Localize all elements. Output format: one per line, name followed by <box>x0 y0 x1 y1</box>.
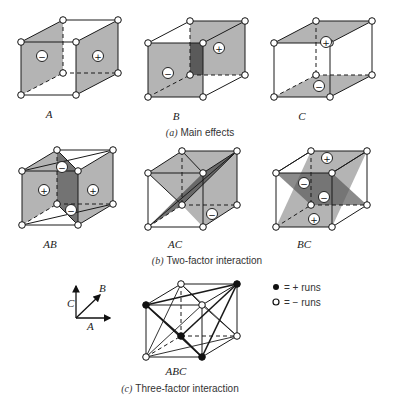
minus-run-point <box>327 94 334 101</box>
legend-open-circle-icon <box>273 299 279 305</box>
sign-glyph: − <box>164 69 172 79</box>
minus-run-point <box>271 94 278 101</box>
sign-glyph: − <box>300 179 308 189</box>
axis-label-c: C <box>67 297 75 309</box>
minus-run-point <box>187 72 194 79</box>
minus-run-point <box>73 39 80 46</box>
minus-run-point <box>364 148 371 155</box>
minus-run-point <box>234 333 241 340</box>
caption-c-letter: (c) <box>121 383 133 395</box>
minus-run-point <box>200 170 207 177</box>
caption-c-text: Three-factor interaction <box>135 383 238 394</box>
legend-plus-runs: = + runs <box>284 282 321 293</box>
cube-b-main-effect: −+ <box>145 18 249 101</box>
minus-run-point <box>200 40 207 47</box>
cube-label-c: C <box>298 110 306 122</box>
cube-c-main-effect: +− <box>271 18 376 101</box>
sign-glyph: − <box>320 193 328 203</box>
minus-run-point <box>199 302 206 309</box>
cube-bc-interaction: +−−+ <box>273 148 371 231</box>
minus-run-point <box>19 168 26 175</box>
minus-run-point <box>308 202 315 209</box>
minus-run-point <box>329 224 336 231</box>
cube-abc-interaction <box>143 281 241 361</box>
minus-run-point <box>273 224 280 231</box>
sign-glyph: + <box>89 186 97 196</box>
minus-run-point <box>234 202 241 209</box>
minus-run-point <box>364 202 371 209</box>
minus-run-point <box>271 40 278 47</box>
minus-run-point <box>75 222 82 229</box>
cube-label-ab: AB <box>42 238 57 250</box>
plane-overlap <box>190 43 203 75</box>
minus-run-point <box>18 92 25 99</box>
minus-run-point <box>369 72 376 79</box>
cube-edge <box>203 75 245 97</box>
minus-run-point <box>75 168 82 175</box>
sign-glyph: + <box>94 52 102 62</box>
minus-run-point <box>200 94 207 101</box>
sign-glyph: − <box>38 52 46 62</box>
axis-label-a: A <box>86 320 94 332</box>
minus-run-point <box>110 147 117 154</box>
minus-run-point <box>145 40 152 47</box>
plus-run-point <box>199 354 206 361</box>
cube-ab-interaction: ++−− <box>19 147 117 229</box>
minus-run-point <box>143 354 150 361</box>
cube-label-bc: BC <box>297 238 312 250</box>
caption-b-letter: (b) <box>152 255 164 267</box>
sign-glyph: + <box>215 44 223 54</box>
minus-run-point <box>145 224 152 231</box>
caption-a-letter: (a) <box>166 127 178 139</box>
minus-run-point <box>145 94 152 101</box>
legend: = + runs = − runs <box>273 282 321 308</box>
minus-run-point <box>73 92 80 99</box>
minus-run-point <box>60 70 67 77</box>
minus-run-point <box>178 281 185 288</box>
minus-run-point <box>115 70 122 77</box>
minus-run-point <box>242 18 249 25</box>
caption-a: (a)Main effects <box>166 127 234 139</box>
axis-label-b: B <box>99 282 106 294</box>
cube-a-main-effect: −+ <box>18 17 122 99</box>
caption-b-text: Two-factor interaction <box>167 255 263 266</box>
cube-ac-interaction: − <box>145 148 241 231</box>
caption-b: (b)Two-factor interaction <box>152 255 262 267</box>
minus-run-point <box>60 17 67 24</box>
minus-run-point <box>308 148 315 155</box>
minus-run-point <box>313 72 320 79</box>
cube-edge <box>148 21 190 43</box>
minus-run-point <box>115 17 122 24</box>
tetrahedron-edge <box>146 336 237 357</box>
sign-glyph: − <box>208 210 216 220</box>
minus-run-point <box>19 222 26 229</box>
minus-run-point <box>110 201 117 208</box>
plus-run-point <box>143 302 150 309</box>
sign-glyph: − <box>315 82 323 92</box>
caption-a-text: Main effects <box>180 127 234 138</box>
sign-glyph: + <box>40 186 48 196</box>
plus-run-point <box>234 281 241 288</box>
minus-run-point <box>54 201 61 208</box>
cube-label-b: B <box>173 110 180 122</box>
legend-minus-runs: = − runs <box>284 297 321 308</box>
minus-run-point <box>18 39 25 46</box>
sign-glyph: + <box>323 154 331 164</box>
minus-run-point <box>329 170 336 177</box>
axis-b-arrow <box>76 295 100 318</box>
caption-c: (c)Three-factor interaction <box>121 383 239 395</box>
sign-glyph: − <box>67 206 75 216</box>
minus-run-point <box>179 202 186 209</box>
minus-run-point <box>54 147 61 154</box>
minus-run-point <box>313 18 320 25</box>
cube-label-a: A <box>45 108 53 120</box>
minus-run-point <box>369 18 376 25</box>
cube-label-abc: ABC <box>165 365 187 377</box>
cube-label-ac: AC <box>167 238 183 250</box>
sign-glyph: + <box>322 38 330 48</box>
minus-run-point <box>200 224 207 231</box>
minus-run-point <box>145 170 152 177</box>
sign-glyph: + <box>310 215 318 225</box>
sign-glyph: − <box>58 163 66 173</box>
minus-run-point <box>187 18 194 25</box>
